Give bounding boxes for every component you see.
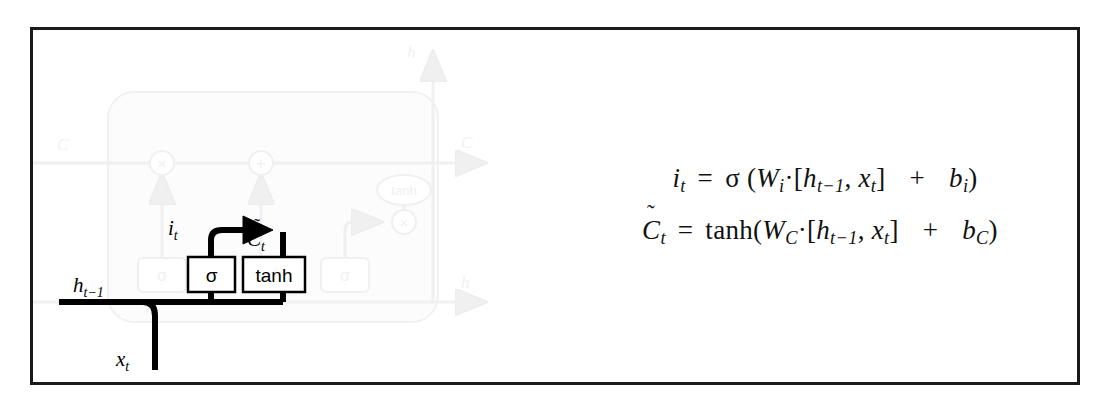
eq2-lhs-group: ˜C [642,217,660,244]
eq2-bias: b [962,215,976,245]
eq2-dot: · [798,215,807,245]
eq1-bracket-open: [ [794,163,803,193]
label-x-t: xt [115,347,130,374]
eq1-x-var: x [859,163,871,193]
figure-border: σ × + σ tanh [30,27,1080,385]
eq1-close-paren: ) [968,163,977,193]
eq1-h-var: h [803,163,817,193]
eq2-open-paren: ( [753,215,762,245]
faded-output-gate-label: σ [340,267,350,284]
eq2-comma: , [858,215,865,245]
eq2-weight: W [762,215,785,245]
eq1-weight: W [756,163,779,193]
eq1-activation: σ [725,163,740,193]
figure-root: σ × + σ tanh [0,0,1111,406]
eq2-h-sub: t−1 [830,228,858,248]
faded-multiply-forget-label: × [158,155,167,172]
eq2-equals: = [678,215,694,245]
faded-output-tanh-label: tanh [391,183,416,198]
faded-label-c-next: C [461,133,473,152]
eq2-bracket-close: ] [889,215,898,245]
eq2-activation: tanh [705,215,753,245]
eq1-dot: · [785,163,794,193]
faded-label-h-out-right: h [461,273,470,292]
eq1-h-sub: t−1 [817,176,845,196]
eq1-plus: + [910,163,926,193]
eq2-x-var: x [872,215,884,245]
label-h-prev: ht−1 [73,273,104,300]
tanh-gate-label: tanh [256,265,293,286]
eq2-lhs-tilde: ˜ [647,203,655,226]
eq1-bracket-close: ] [876,163,885,193]
eq2-lhs-sub: t [660,228,665,248]
eq2-weight-sub: C [785,228,798,248]
eq1-equals: = [698,163,714,193]
sigma-gate-label: σ [206,265,218,286]
eq1-open-paren: ( [747,163,756,193]
faded-forget-gate-label: σ [157,267,167,284]
eq1-lhs-sub: t [680,176,685,196]
faded-plus-operator-label: + [256,155,265,172]
faded-label-c-prev: C [57,135,69,154]
eq2-bracket-open: [ [807,215,816,245]
equation-input-gate: it=σ(Wi·[ht−1,xt]+bi) [662,165,977,196]
lstm-diagram-svg: σ × + σ tanh [33,30,563,382]
equation-candidate-cell: ˜Ct=tanh(WC·[ht−1,xt]+bC) [642,217,998,248]
eq2-h-var: h [816,215,830,245]
eq1-comma: , [844,163,851,193]
lstm-diagram: σ × + σ tanh [33,30,563,382]
eq1-bias: b [949,163,963,193]
eq2-close-paren: ) [989,215,998,245]
equations-panel: it=σ(Wi·[ht−1,xt]+bi) ˜Ct=tanh(WC·[ht−1,… [563,30,1077,382]
eq2-bias-sub: C [976,228,989,248]
faded-multiply-output-label: × [400,214,409,231]
faded-label-h-out-top: h [407,43,416,62]
eq2-plus: + [923,215,939,245]
